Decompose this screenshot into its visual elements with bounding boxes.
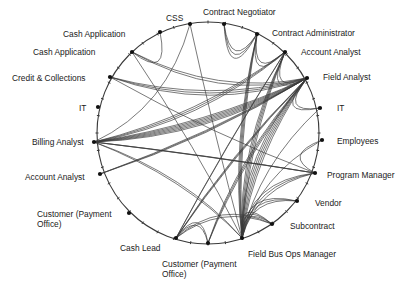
label-cash-lead: Cash Lead bbox=[120, 243, 161, 253]
node-employees bbox=[320, 138, 324, 142]
label-it-right: IT bbox=[337, 103, 344, 113]
ring-tick bbox=[306, 183, 309, 184]
ring-tick bbox=[108, 82, 111, 83]
label-customer-payment-office-left: Customer (Payment Office) bbox=[37, 209, 121, 229]
node-subcontract bbox=[270, 222, 274, 226]
node-cash-application-2 bbox=[130, 50, 134, 54]
node-field-bus-ops-manager bbox=[240, 236, 244, 240]
label-cash-application-2: Cash Application bbox=[33, 47, 95, 57]
label-field-bus-ops-manager: Field Bus Ops Manager bbox=[248, 249, 336, 259]
edge-vendor-field-bus-ops-manager bbox=[242, 200, 297, 238]
label-contract-negotiator: Contract Negotiator bbox=[203, 7, 276, 17]
label-customer-payment-office-bottom: Customer (Payment Office) bbox=[162, 259, 246, 279]
edge-cash-lead-account-analyst-right bbox=[176, 52, 285, 238]
ring-tick bbox=[306, 82, 309, 83]
label-billing-analyst: Billing Analyst bbox=[32, 137, 84, 147]
node-program-manager bbox=[313, 171, 317, 175]
node-credit-collections bbox=[108, 75, 112, 79]
label-account-analyst-right: Account Analyst bbox=[301, 47, 361, 57]
label-account-analyst-left: Account Analyst bbox=[25, 172, 85, 182]
node-it-right bbox=[318, 106, 322, 110]
ring-tick bbox=[242, 26, 243, 29]
label-field-analyst: Field Analyst bbox=[323, 72, 370, 82]
ring-tick bbox=[101, 167, 104, 168]
ring-tick bbox=[258, 231, 259, 234]
node-customer-payment-office-left bbox=[127, 211, 131, 215]
node-cash-lead bbox=[174, 236, 178, 240]
edge-cash-lead-account-analyst-right bbox=[176, 52, 285, 238]
label-program-manager: Program Manager bbox=[327, 170, 395, 180]
node-billing-analyst bbox=[92, 140, 96, 144]
label-contract-administrator: Contract Administrator bbox=[272, 28, 355, 38]
node-account-analyst-left bbox=[98, 172, 102, 176]
ring-tick bbox=[312, 167, 315, 168]
node-account-analyst-right bbox=[283, 50, 287, 54]
label-cash-application-1: Cash Application bbox=[63, 29, 125, 39]
node-css bbox=[188, 22, 192, 26]
ring-tick bbox=[312, 98, 315, 99]
ring-tick bbox=[157, 231, 158, 234]
ring-tick bbox=[108, 183, 111, 184]
label-vendor: Vendor bbox=[315, 198, 342, 208]
label-it-left: IT bbox=[79, 103, 86, 113]
ring-tick bbox=[101, 98, 104, 99]
edge-cash-application-2-field-bus-ops-manager bbox=[132, 52, 242, 238]
node-vendor bbox=[295, 199, 299, 203]
node-field-analyst bbox=[305, 76, 309, 80]
ring-tick bbox=[157, 33, 158, 36]
label-credit-collections: Credit & Collections bbox=[12, 73, 86, 83]
node-markers bbox=[92, 22, 324, 245]
node-contract-administrator bbox=[255, 32, 259, 36]
label-subcontract: Subcontract bbox=[290, 221, 335, 231]
label-employees: Employees bbox=[337, 136, 378, 146]
node-it-left bbox=[96, 105, 100, 109]
edge-contract-negotiator-contract-administrator bbox=[224, 24, 257, 55]
node-contract-negotiator bbox=[222, 22, 226, 26]
ring-tick bbox=[173, 26, 174, 29]
node-cash-application-1 bbox=[158, 30, 162, 34]
edge-vendor-field-bus-ops-manager bbox=[242, 201, 297, 238]
label-css: CSS bbox=[166, 13, 183, 23]
node-customer-payment-office-bottom bbox=[206, 241, 210, 245]
